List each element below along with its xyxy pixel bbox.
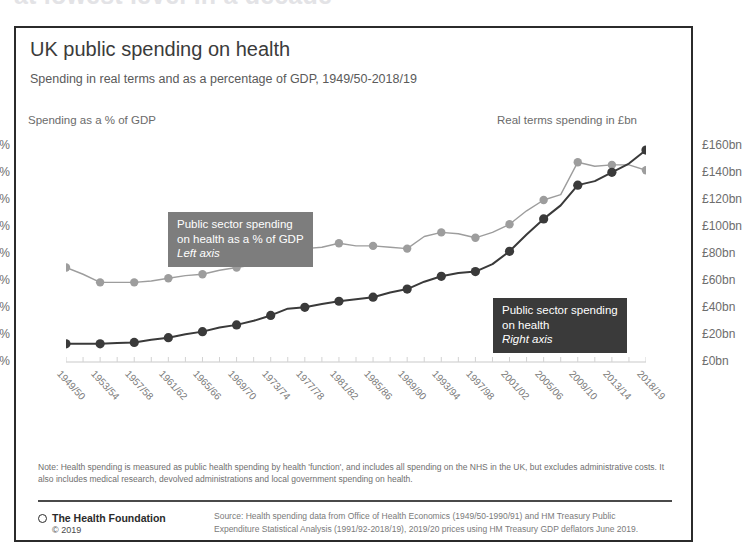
left-axis-caption: Spending as a % of GDP [28, 114, 156, 126]
brand-name: The Health Foundation [52, 512, 166, 524]
series-2-data-point [573, 181, 582, 190]
chart-subtitle: Spending in real terms and as a percenta… [30, 72, 417, 86]
callout-gdp-line1: Public sector spending [177, 217, 304, 232]
x-axis-tick-label: 1989/90 [396, 368, 429, 402]
series-1-data-point [66, 263, 70, 271]
series-1-data-point [369, 242, 377, 250]
series-2-data-point [437, 272, 446, 281]
series-2-data-point [471, 267, 480, 276]
series-1-data-point [403, 244, 411, 252]
x-axis-tick-label: 2018/19 [635, 368, 668, 402]
series-1-data-point [130, 278, 138, 286]
chart-card: UK public spending on health Spending in… [14, 26, 693, 542]
y-axis-left-tick-label: 6% [0, 192, 10, 206]
x-axis-tick-label: 1957/58 [123, 368, 156, 402]
y-axis-left-tick-label: 4% [0, 246, 10, 260]
series-2-data-point [334, 297, 343, 306]
callout-real-line2: on health [502, 318, 618, 333]
source-text: Source: Health spending data from Office… [214, 510, 654, 535]
series-1-data-point [539, 196, 547, 204]
series-1-data-point [574, 158, 582, 166]
y-axis-right-tick-label: £40bn [702, 300, 746, 314]
series-1-data-point [96, 278, 104, 286]
series-1-data-point [642, 166, 646, 174]
x-axis-tick-label: 1985/86 [362, 368, 395, 402]
brand-logo: The Health Foundation [38, 512, 166, 524]
series-1-data-point [505, 220, 513, 228]
y-axis-right-tick-label: £100bn [702, 219, 746, 233]
series-2-data-point [505, 247, 514, 256]
cutoff-headline-text: at lowest level in a decade [14, 0, 332, 10]
y-axis-right-tick-label: £60bn [702, 273, 746, 287]
x-axis-tick-label: 1965/66 [191, 368, 224, 402]
chart-note: Note: Health spending is measured as pub… [38, 461, 672, 485]
legend-callout-gdp-share: Public sector spending on health as a % … [168, 212, 313, 267]
x-axis-tick-label: 1981/82 [328, 368, 361, 402]
callout-gdp-axis-note: Left axis [177, 246, 304, 261]
y-axis-right-tick-label: £0bn [702, 354, 746, 368]
page-title: UK public spending on health [30, 38, 290, 61]
legend-callout-real-terms: Public sector spending on health Right a… [493, 298, 627, 353]
series-2-data-point [232, 320, 241, 329]
y-axis-right-tick-label: £20bn [702, 327, 746, 341]
y-axis-right-tick-label: £160bn [702, 138, 746, 152]
y-axis-right-tick-label: £80bn [702, 246, 746, 260]
circle-logo-icon [38, 514, 47, 523]
y-axis-left-tick-label: 0% [0, 354, 10, 368]
callout-gdp-line2: on health as a % of GDP [177, 232, 304, 247]
x-axis-tick-label: 1949/50 [55, 368, 88, 402]
x-axis-tick-label: 2009/10 [567, 368, 600, 402]
x-axis-tick-label: 1953/54 [89, 368, 122, 402]
series-line-1 [66, 162, 646, 282]
series-2-data-point [403, 285, 412, 294]
series-2-data-point [164, 333, 173, 342]
series-1-data-point [437, 228, 445, 236]
series-1-data-point [335, 239, 343, 247]
callout-real-axis-note: Right axis [502, 332, 618, 347]
series-2-data-point [266, 311, 275, 320]
y-axis-left-tick-label: 3% [0, 273, 10, 287]
y-axis-left-tick-label: 2% [0, 300, 10, 314]
x-axis-tick-label: 1997/98 [464, 368, 497, 402]
x-axis-tick-label: 1961/62 [157, 368, 190, 402]
footer-divider [38, 500, 672, 502]
callout-real-line1: Public sector spending [502, 303, 618, 318]
copyright-text: © 2019 [52, 525, 81, 535]
cutoff-headline: at lowest level in a decade [0, 0, 709, 18]
y-axis-right-tick-label: £140bn [702, 165, 746, 179]
y-axis-left-tick-label: 7% [0, 165, 10, 179]
y-axis-right-tick-label: £120bn [702, 192, 746, 206]
x-axis-tick-label: 1993/94 [430, 368, 463, 402]
x-axis-tick-label: 2005/06 [533, 368, 566, 402]
y-axis-left-tick-label: 8% [0, 138, 10, 152]
series-1-data-point [198, 270, 206, 278]
series-2-data-point [300, 303, 309, 312]
x-axis-tick-label: 2001/02 [498, 368, 531, 402]
series-2-data-point [130, 338, 139, 347]
series-1-data-point [471, 234, 479, 242]
x-axis-tick-label: 1969/70 [226, 368, 259, 402]
y-axis-left-tick-label: 1% [0, 327, 10, 341]
series-2-data-point [66, 339, 71, 348]
series-2-data-point [96, 339, 105, 348]
x-axis-tick-label: 1973/74 [260, 368, 293, 402]
page-bottom-edge [0, 544, 709, 554]
series-1-data-point [164, 274, 172, 282]
y-axis-left-tick-label: 5% [0, 219, 10, 233]
series-2-data-point [539, 214, 548, 223]
x-axis-tick-label: 2013/14 [601, 368, 634, 402]
series-2-data-point [368, 293, 377, 302]
series-2-data-point [198, 327, 207, 336]
right-axis-caption: Real terms spending in £bn [497, 114, 637, 126]
x-axis-tick-label: 1977/78 [294, 368, 327, 402]
series-2-data-point [607, 168, 616, 177]
